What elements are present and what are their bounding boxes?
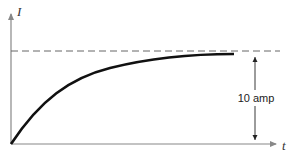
x-axis-label: t — [282, 138, 286, 153]
current-curve — [11, 54, 234, 144]
current-rise-diagram: 10 amp I t — [0, 0, 294, 163]
y-axis-label: I — [16, 4, 22, 19]
asymptote-label: 10 amp — [238, 92, 275, 104]
